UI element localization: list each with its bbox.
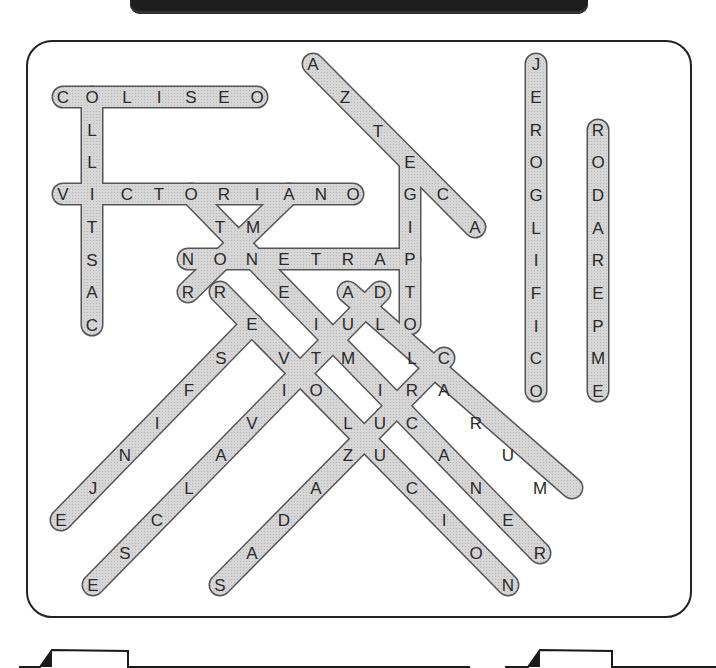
answer-box-left-tab — [20, 650, 470, 668]
answer-tabs — [0, 0, 716, 668]
